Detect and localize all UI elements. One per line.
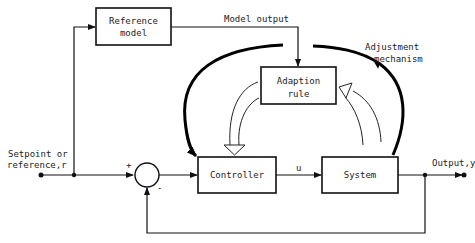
system-label: System [344, 170, 377, 180]
plus-sign: + [126, 160, 132, 170]
adaption-rule-block: Adaption rule [261, 67, 336, 104]
system-block: System [322, 157, 398, 193]
summing-junction [135, 163, 159, 187]
output-terminal [462, 173, 467, 178]
adaption-rule-label-2: rule [288, 89, 310, 99]
adaption-to-controller-hollow-arrow [224, 82, 259, 155]
adjustment-mechanism-label-2: mechanism [374, 54, 423, 64]
reference-model-input-line [74, 27, 95, 175]
adjustment-mechanism-label-1: Adjustment [365, 42, 419, 52]
reference-model-block: Reference model [96, 8, 171, 45]
controller-block: Controller [198, 157, 276, 193]
output-label: Output,y [432, 158, 475, 168]
system-to-adaption-hollow-arrow [339, 83, 381, 145]
setpoint-label-1: Setpoint or [8, 149, 68, 159]
controller-label: Controller [210, 170, 265, 180]
control-signal-label: u [296, 163, 301, 173]
model-output-label: Model output [224, 14, 289, 24]
mrac-diagram: Reference model Model output Adaption ru… [0, 0, 475, 243]
reference-model-label-1: Reference [109, 16, 158, 26]
setpoint-label-2: reference,r [7, 160, 67, 170]
minus-sign: - [157, 183, 162, 193]
reference-model-label-2: model [120, 28, 147, 38]
adaption-rule-label-1: Adaption [277, 76, 320, 86]
